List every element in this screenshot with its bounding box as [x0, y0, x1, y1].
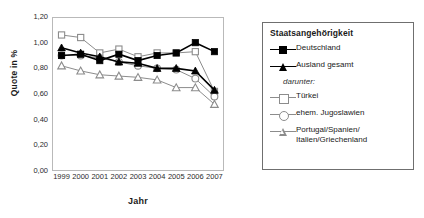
chart-figure: Quote in % Jahr 0,000,200,400,600,801,00… [0, 0, 424, 218]
y-tick-label: 0,80 [24, 63, 48, 72]
x-axis-tick-labels: 199920002001200220032004200520062007 [52, 172, 224, 188]
legend-marker-icon [270, 126, 296, 137]
x-tick-label: 2007 [200, 172, 228, 181]
legend-marker-icon [270, 92, 296, 103]
plot-series-layer [52, 17, 224, 171]
x-axis-title: Jahr [52, 196, 224, 206]
y-tick-label: 0,00 [24, 166, 48, 175]
legend-item[interactable]: Türkei [270, 91, 407, 103]
y-tick-label: 0,20 [24, 140, 48, 149]
legend-entries: DeutschlandAusland gesamtdarunter:Türkei… [270, 43, 407, 145]
legend-item-label: Deutschland [296, 43, 340, 53]
legend-item[interactable]: Ausland gesamt [270, 60, 407, 72]
legend-item[interactable]: Deutschland [270, 43, 407, 55]
legend-subheading: darunter: [283, 77, 407, 86]
legend-marker-icon [270, 44, 296, 55]
legend-item-label: Türkei [296, 91, 318, 101]
legend-item[interactable]: Portugal/Spanien/Italien/Griechenland [270, 125, 407, 145]
legend-item-label: Portugal/Spanien/Italien/Griechenland [296, 125, 367, 145]
y-axis-title: Quote in % [9, 33, 19, 113]
y-tick-label: 1,20 [24, 12, 48, 21]
y-tick-label: 0,60 [24, 89, 48, 98]
legend-item-label: Ausland gesamt [296, 60, 353, 70]
y-axis-tick-labels: 0,000,200,400,600,801,001,20 [22, 0, 48, 218]
legend-box: Staatsangehörigkeit DeutschlandAusland g… [262, 22, 414, 170]
legend-marker-icon [270, 109, 296, 120]
y-tick-label: 1,00 [24, 38, 48, 47]
legend-title: Staatsangehörigkeit [270, 28, 407, 38]
legend-item-label: ehem. Jugoslawien [296, 108, 364, 118]
legend-marker-icon [270, 61, 296, 72]
y-tick-label: 0,40 [24, 115, 48, 124]
legend-item[interactable]: ehem. Jugoslawien [270, 108, 407, 120]
